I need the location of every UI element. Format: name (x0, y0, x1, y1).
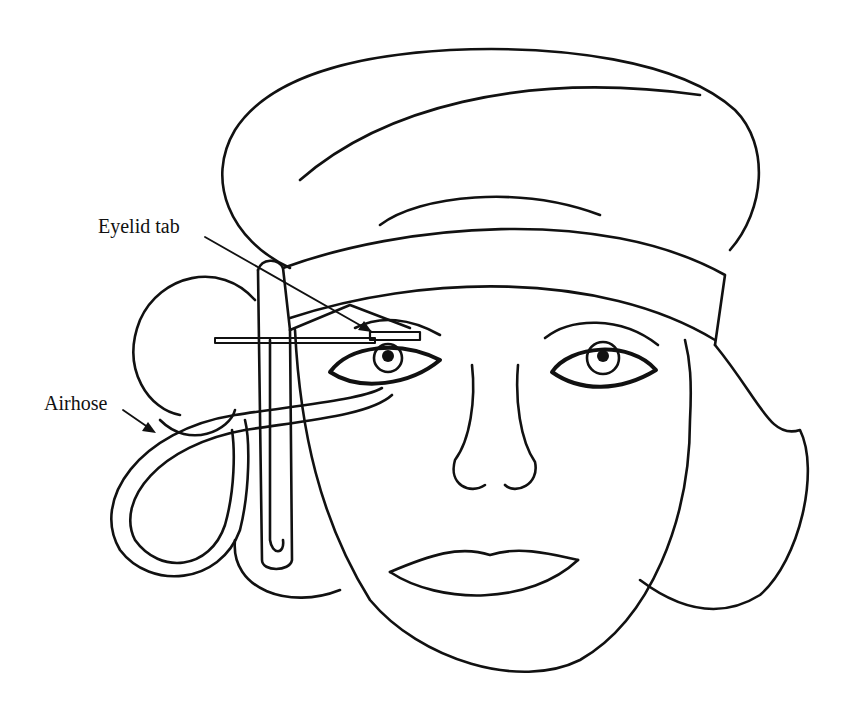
hat (222, 49, 759, 345)
eyelid-holder (258, 261, 410, 569)
airhose (111, 388, 392, 576)
label-eyelid-tab: Eyelid tab (98, 215, 180, 238)
diagram-canvas: Eyelid tab Airhose (0, 0, 850, 716)
left-eye (330, 344, 440, 384)
nose (454, 365, 536, 489)
eyelid-tab-rod (215, 332, 420, 343)
mouth (390, 551, 578, 596)
label-airhose: Airhose (44, 392, 107, 415)
hair (134, 277, 808, 609)
face-illustration (0, 0, 850, 716)
right-eye (552, 342, 656, 387)
